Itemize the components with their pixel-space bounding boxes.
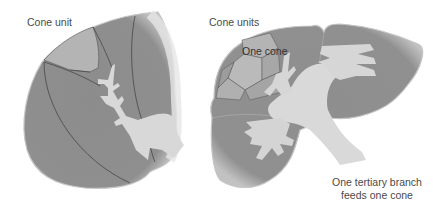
label-one-cone: One cone [242,46,288,57]
label-cone-units: Cone units [209,17,259,28]
caption-line-2: feeds one cone [322,190,432,201]
left-liver-segment [24,12,184,188]
caption-line-1: One tertiary branch [322,177,432,188]
label-cone-unit: Cone unit [27,17,72,28]
diagram-stage: Cone unit Cone units One cone One tertia… [0,0,433,218]
